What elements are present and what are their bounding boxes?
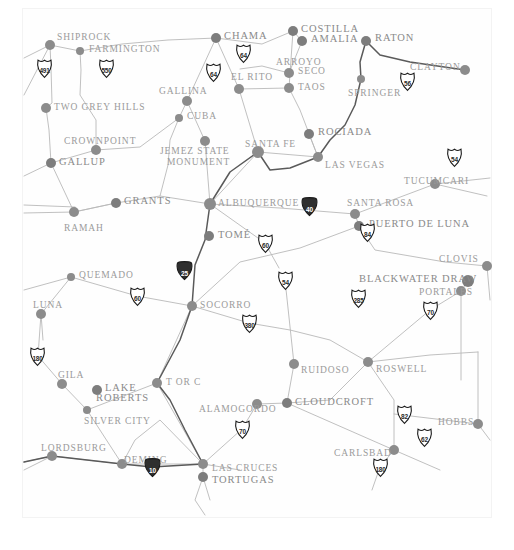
us-highway-shield-icon[interactable]: 84 (358, 222, 377, 243)
us-highway-shield-icon[interactable]: 56 (398, 71, 417, 92)
us-highway-shield-icon[interactable]: 54 (445, 147, 464, 168)
city-marker[interactable] (361, 36, 371, 46)
us-highway-shield-icon[interactable]: 550 (97, 58, 116, 79)
city-label: SILVER CITY (84, 416, 151, 427)
city-label: EL RITO (231, 72, 273, 83)
city-label: ROBERTS (96, 393, 149, 404)
city-label: CLOVIS (439, 254, 479, 265)
city-marker[interactable] (36, 309, 46, 319)
city-label: CLAYTON (410, 62, 461, 73)
shield-number: 25 (175, 260, 194, 281)
city-marker[interactable] (57, 379, 67, 389)
shield-number: 60 (128, 286, 147, 307)
city-marker[interactable] (198, 472, 208, 482)
city-label: GRANTS (124, 196, 171, 207)
city-label: ROSWELL (376, 364, 427, 375)
us-highway-shield-icon[interactable]: 82 (395, 404, 414, 425)
city-marker[interactable] (67, 273, 75, 281)
us-highway-shield-icon[interactable]: 70 (233, 419, 252, 440)
us-highway-shield-icon[interactable]: 285 (349, 288, 368, 309)
shield-number: 380 (240, 313, 259, 334)
city-marker[interactable] (297, 36, 307, 46)
shield-number: 54 (276, 270, 295, 291)
us-highway-shield-icon[interactable]: 62 (415, 427, 434, 448)
city-marker[interactable] (69, 207, 79, 217)
city-label: AMALIA (311, 34, 358, 45)
city-marker[interactable] (460, 65, 470, 75)
city-label: ROCIADA (318, 127, 372, 138)
shield-number: 550 (97, 58, 116, 79)
us-highway-shield-icon[interactable]: 60 (256, 233, 275, 254)
city-marker[interactable] (284, 83, 294, 93)
shield-number: 56 (398, 71, 417, 92)
shield-number: 82 (395, 404, 414, 425)
city-marker[interactable] (282, 398, 292, 408)
city-label: RAMAH (64, 223, 104, 234)
city-marker[interactable] (289, 359, 299, 369)
city-marker[interactable] (288, 26, 298, 36)
city-label: QUEMADO (79, 270, 134, 281)
city-label: TUCUMCARI (404, 176, 469, 187)
shield-number: 64 (234, 43, 253, 64)
us-highway-shield-icon[interactable]: 180 (28, 346, 47, 367)
city-marker[interactable] (41, 103, 51, 113)
city-marker[interactable] (76, 47, 84, 55)
city-label: CLOUDCROFT (295, 397, 374, 408)
shield-number: 285 (349, 288, 368, 309)
city-label: LUNA (33, 300, 63, 311)
city-label: SPRINGER (348, 88, 401, 99)
city-marker[interactable] (313, 152, 323, 162)
interstate-shield-icon[interactable]: 40 (300, 196, 319, 217)
city-marker[interactable] (234, 84, 244, 94)
city-marker[interactable] (363, 357, 373, 367)
city-label: T OR C (166, 377, 201, 388)
city-label: TWO GREY HILLS (54, 102, 145, 113)
city-marker[interactable] (198, 459, 208, 469)
interstate-shield-icon[interactable]: 10 (143, 457, 162, 478)
city-marker[interactable] (204, 198, 216, 210)
map-canvas: SHIPROCKFARMINGTONCHAMACOSTILLAAMALIARAT… (0, 0, 514, 550)
city-marker[interactable] (211, 33, 221, 43)
city-label: PUERTO DE LUNA (369, 219, 470, 230)
shield-number: 70 (421, 300, 440, 321)
city-marker[interactable] (204, 231, 214, 241)
city-marker[interactable] (83, 406, 91, 414)
city-label: SANTA FE (245, 139, 296, 150)
shield-number: 40 (300, 196, 319, 217)
city-marker[interactable] (200, 136, 210, 146)
interstate-shield-icon[interactable]: 25 (175, 260, 194, 281)
city-marker[interactable] (152, 378, 162, 388)
us-highway-shield-icon[interactable]: 180 (371, 457, 390, 478)
us-highway-shield-icon[interactable]: 70 (421, 300, 440, 321)
city-marker[interactable] (350, 209, 360, 219)
us-highway-shield-icon[interactable]: 54 (276, 270, 295, 291)
city-label: TORTUGAS (212, 475, 274, 486)
us-highway-shield-icon[interactable]: 64 (234, 43, 253, 64)
city-label: RUIDOSO (301, 365, 350, 376)
city-marker[interactable] (473, 419, 483, 429)
us-highway-shield-icon[interactable]: 64 (204, 62, 223, 83)
shield-number: 10 (143, 457, 162, 478)
shield-number: 491 (35, 58, 54, 79)
us-highway-shield-icon[interactable]: 380 (240, 313, 259, 334)
city-label: CHAMA (224, 31, 268, 42)
city-marker[interactable] (304, 129, 314, 139)
city-marker[interactable] (45, 40, 55, 50)
city-marker[interactable] (284, 68, 294, 78)
city-marker[interactable] (46, 158, 56, 168)
city-label: JEMEZ STATE (160, 146, 230, 157)
city-marker[interactable] (182, 96, 192, 106)
us-highway-shield-icon[interactable]: 60 (128, 286, 147, 307)
city-label: SECO (298, 66, 326, 77)
city-label: GALLUP (59, 157, 106, 168)
shield-number: 60 (256, 233, 275, 254)
city-marker[interactable] (175, 114, 183, 122)
city-label: FARMINGTON (89, 44, 160, 55)
city-marker[interactable] (357, 75, 365, 83)
city-marker[interactable] (482, 261, 492, 271)
city-marker[interactable] (187, 301, 197, 311)
city-marker[interactable] (111, 198, 121, 208)
shield-number: 54 (445, 147, 464, 168)
city-marker[interactable] (91, 145, 101, 155)
us-highway-shield-icon[interactable]: 491 (35, 58, 54, 79)
